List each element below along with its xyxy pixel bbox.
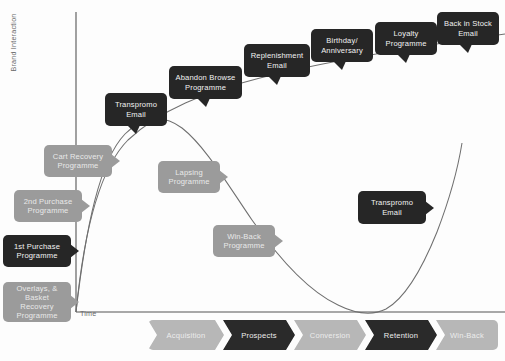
funnel-segment-acquisition[interactable]: Acquisition <box>148 320 224 350</box>
funnel-segment-win-back[interactable]: Win-Back <box>436 320 498 350</box>
callout-birthday-anniversary[interactable]: Birthday/ Anniversary <box>311 29 373 62</box>
callout-loyalty-programme[interactable]: Loyalty Programme <box>375 22 437 55</box>
callout-label: 2nd Purchase Programme <box>24 197 73 216</box>
lifecycle-diagram: Brand Interaction Time Transpromo Email … <box>0 0 505 361</box>
callout-abandon-browse[interactable]: Abandon Browse Programme <box>169 66 242 99</box>
callout-label: Replenishment Email <box>251 51 304 70</box>
callout-label: Cart Recovery Programme <box>53 152 103 171</box>
callout-cart-recovery[interactable]: Cart Recovery Programme <box>44 145 112 177</box>
callout-lapsing-programme[interactable]: Lapsing Programme <box>158 161 220 193</box>
funnel-segment-label: Acquisition <box>167 331 206 340</box>
callout-win-back-programme[interactable]: Win-Back Programme <box>213 225 275 257</box>
callout-label: Win-Back Programme <box>223 232 264 251</box>
y-axis-label: Brand Interaction <box>9 13 18 73</box>
callout-second-purchase[interactable]: 2nd Purchase Programme <box>14 190 82 222</box>
callout-label: Abandon Browse Programme <box>176 73 236 92</box>
callout-label: 1st Purchase Programme <box>14 242 60 261</box>
funnel-segment-retention[interactable]: Retention <box>365 320 437 350</box>
funnel-segment-label: Conversion <box>310 331 350 340</box>
funnel-segment-label: Prospects <box>241 331 277 340</box>
callout-label: Birthday/ Anniversary <box>321 36 363 55</box>
callout-label: Transpromo Email <box>371 198 413 217</box>
callout-label: Loyalty Programme <box>385 29 426 48</box>
callout-label: Back in Stock Email <box>444 19 492 38</box>
callout-back-in-stock-email[interactable]: Back in Stock Email <box>437 12 499 45</box>
callout-transpromo-email-1[interactable]: Transpromo Email <box>105 93 167 126</box>
callout-replenishment-email[interactable]: Replenishment Email <box>244 44 310 77</box>
funnel-segment-conversion[interactable]: Conversion <box>294 320 366 350</box>
funnel-segment-label: Win-Back <box>450 331 484 340</box>
callout-overlays-basket-recovery[interactable]: Overlays, & Basket Recovery Programme <box>3 282 71 322</box>
callout-label: Transpromo Email <box>115 100 157 119</box>
funnel-segment-label: Retention <box>384 331 418 340</box>
callout-label: Overlays, & Basket Recovery Programme <box>8 284 66 321</box>
callout-label: Lapsing Programme <box>168 168 209 187</box>
lifecycle-funnel-bar: Acquisition Prospects Conversion Retenti… <box>148 320 497 350</box>
funnel-segment-prospects[interactable]: Prospects <box>223 320 295 350</box>
callout-transpromo-email-2[interactable]: Transpromo Email <box>358 191 426 224</box>
callout-first-purchase[interactable]: 1st Purchase Programme <box>3 235 71 267</box>
x-axis-label: Time <box>80 309 97 318</box>
